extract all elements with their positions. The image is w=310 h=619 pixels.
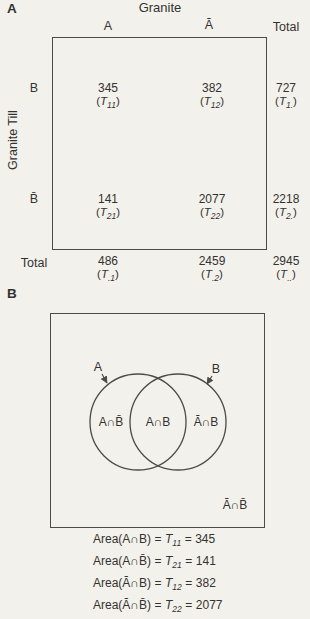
cell-t-label: (T.1) (73, 268, 143, 285)
venn-border: A B A∩B̄ A∩B Ā∩B Ā∩B̄ (50, 313, 265, 528)
area-equation-intersection: Area(A∩B)=T11=345 (93, 532, 215, 548)
cell-t-label: (T12) (177, 95, 247, 112)
set-a-arrow (102, 374, 107, 383)
row-header-b-bar: B̄ (26, 192, 42, 206)
figure-contingency-venn: A Granite A Ā Total Granite Till B B̄ T… (0, 0, 310, 619)
region-label-a-only: A∩B̄ (99, 415, 124, 429)
area-equation-b-only: Area(Ā∩B)=T12=382 (93, 576, 216, 592)
cell-t-label: (T21) (73, 206, 143, 223)
cell-t-label: (T22) (177, 206, 247, 223)
equation-lhs: Area(Ā∩B) (93, 576, 151, 590)
cell-value: 2459 (177, 255, 247, 268)
cell-grand-total: 2945 (T..) (251, 255, 310, 285)
col-header-a-bar: Ā (189, 18, 229, 32)
region-label-b-only: Ā∩B (194, 415, 219, 429)
equation-value: 141 (196, 554, 216, 568)
cell-value: 2077 (177, 193, 247, 206)
panel-b-label: B (7, 286, 17, 301)
cell-t-label: (T.2) (177, 268, 247, 285)
equation-lhs: Area(Ā∩B̄) (93, 598, 151, 612)
panel-a-label: A (7, 1, 17, 16)
cell-b-bar-a: 141 (T21) (73, 193, 143, 223)
cell-b-a: 345 (T11) (73, 82, 143, 112)
cell-col-total-a-bar: 2459 (T.2) (177, 255, 247, 285)
cell-b-bar-row-total: 2218 (T2.) (251, 193, 310, 223)
cell-b-bar-a-bar: 2077 (T22) (177, 193, 247, 223)
cell-value: 2218 (251, 193, 310, 206)
equation-value: 382 (196, 576, 216, 590)
set-b-arrow (207, 376, 212, 384)
col-header-total: Total (262, 20, 310, 34)
cell-value: 345 (73, 82, 143, 95)
cell-b-row-total: 727 (T1.) (251, 82, 310, 112)
row-header-b: B (26, 81, 42, 95)
equation-value: 2077 (196, 598, 223, 612)
row-axis-label: Granite Till (6, 110, 20, 170)
cell-t-label: (T2.) (251, 206, 310, 223)
cell-value: 2945 (251, 255, 310, 268)
row-header-total: Total (14, 256, 54, 270)
region-label-intersection: A∩B (146, 415, 171, 429)
cell-col-total-a: 486 (T.1) (73, 255, 143, 285)
cell-value: 141 (73, 193, 143, 206)
area-equation-a-only: Area(A∩B̄)=T21=141 (93, 554, 216, 570)
table-title: Granite (110, 0, 210, 15)
set-a-label: A (94, 360, 102, 374)
cell-value: 486 (73, 255, 143, 268)
cell-b-a-bar: 382 (T12) (177, 82, 247, 112)
cell-t-label: (T11) (73, 95, 143, 112)
equation-lhs: Area(A∩B) (93, 532, 151, 546)
cell-t-label: (T1.) (251, 95, 310, 112)
equation-lhs: Area(A∩B̄) (93, 554, 151, 568)
area-equation-outside: Area(Ā∩B̄)=T22=2077 (93, 598, 223, 614)
cell-value: 382 (177, 82, 247, 95)
region-label-outside: Ā∩B̄ (223, 498, 248, 512)
equation-value: 345 (195, 532, 215, 546)
cell-t-label: (T..) (251, 268, 310, 285)
col-header-a: A (88, 19, 128, 33)
set-b-label: B (212, 362, 220, 376)
cell-value: 727 (251, 82, 310, 95)
